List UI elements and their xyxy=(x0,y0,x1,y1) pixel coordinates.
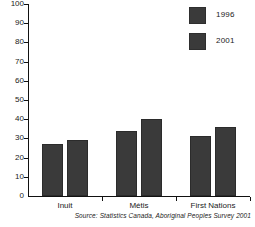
y-tick-label-60: 60 xyxy=(0,77,24,85)
y-tick-label-70: 70 xyxy=(0,58,24,66)
bars-layer xyxy=(28,4,250,196)
y-tick-mark-10 xyxy=(24,177,28,178)
x-axis-line xyxy=(28,196,250,197)
x-tick-mark-1 xyxy=(102,197,103,201)
y-tick-mark-30 xyxy=(24,138,28,139)
y-tick-label-10: 10 xyxy=(0,173,24,181)
y-tick-label-30: 30 xyxy=(0,134,24,142)
bar-inuit-2001 xyxy=(67,140,88,196)
y-tick-label-0: 0 xyxy=(0,192,24,200)
x-category-label-first-nations: First Nations xyxy=(191,202,236,210)
y-tick-mark-70 xyxy=(24,62,28,63)
y-tick-mark-80 xyxy=(24,42,28,43)
y-tick-label-20: 20 xyxy=(0,154,24,162)
y-tick-label-40: 40 xyxy=(0,115,24,123)
x-category-label-inuit: Inuit xyxy=(57,202,72,210)
y-tick-label-80: 80 xyxy=(0,38,24,46)
y-tick-mark-20 xyxy=(24,158,28,159)
bar-chart-figure: 1996 2001 0102030405060708090100 InuitMé… xyxy=(0,0,255,227)
y-axis-tick-labels: 0102030405060708090100 xyxy=(0,4,24,196)
y-tick-label-100: 100 xyxy=(0,0,24,8)
y-tick-mark-40 xyxy=(24,119,28,120)
source-note: Source: Statistics Canada, Aboriginal Pe… xyxy=(0,213,251,220)
y-tick-mark-90 xyxy=(24,23,28,24)
bar-first-nations-1996 xyxy=(190,136,211,196)
bar-inuit-1996 xyxy=(42,144,63,196)
bar-first-nations-2001 xyxy=(215,127,236,196)
y-tick-label-50: 50 xyxy=(0,96,24,104)
bar-métis-1996 xyxy=(116,131,137,196)
plot-area: 0102030405060708090100 InuitMétisFirst N… xyxy=(0,4,255,204)
bar-métis-2001 xyxy=(141,119,162,196)
y-tick-mark-100 xyxy=(24,4,28,5)
x-tick-mark-2 xyxy=(176,197,177,201)
y-tick-mark-60 xyxy=(24,81,28,82)
x-category-label-métis: Métis xyxy=(129,202,148,210)
x-tick-mark-3 xyxy=(250,197,251,201)
y-tick-label-90: 90 xyxy=(0,19,24,27)
y-tick-mark-50 xyxy=(24,100,28,101)
